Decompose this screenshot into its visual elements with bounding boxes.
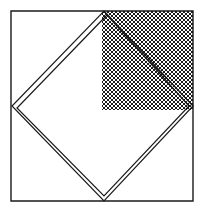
geometric-figure-svg xyxy=(0,0,211,214)
figure-canvas xyxy=(0,0,211,214)
